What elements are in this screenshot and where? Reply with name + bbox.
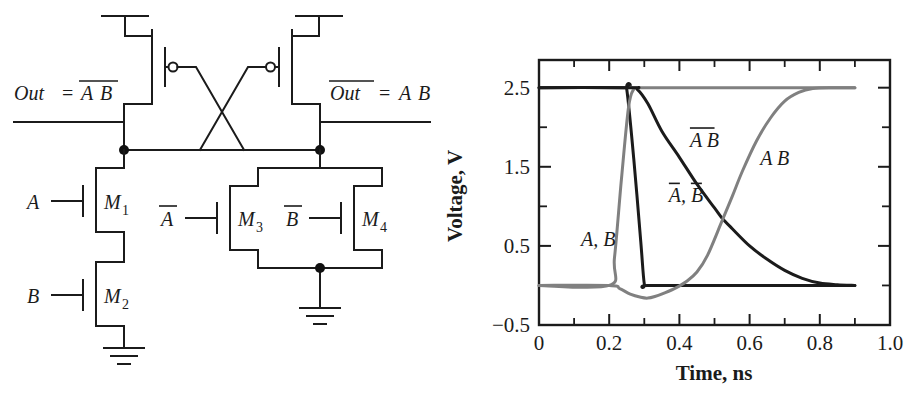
transistor-name-m1-sub: 1 (122, 203, 129, 218)
gate-label-a: A (25, 191, 40, 213)
y-axis-tick-labels: −0.50.51.52.5 (492, 76, 530, 337)
label-out-right: Out = A B (329, 81, 430, 104)
circuit-schematic-svg: Out = A B Out = A B A B A B (0, 0, 460, 395)
y-axis-title: Voltage, V (443, 150, 467, 242)
curve-annotation-text: A B (688, 129, 719, 151)
y-tick-label: −0.5 (492, 313, 530, 337)
transient-plot-svg: 00.20.40.60.81.0 −0.50.51.52.5 A, BA, BA… (440, 0, 916, 395)
label-out-right-b: B (418, 82, 430, 104)
pmos-right-gate-bubble-icon (266, 63, 275, 72)
x-tick-label: 0.8 (807, 331, 833, 355)
y-tick-label: 1.5 (504, 155, 530, 179)
pmos-right (275, 30, 320, 150)
transistor-name-m2: M 2 (103, 285, 129, 312)
x-axis-tick-labels: 00.20.40.60.81.0 (534, 331, 903, 355)
curve-annotation: A, B (579, 228, 615, 250)
label-out-left: Out = A B (14, 81, 118, 104)
gate-label-bbar-group: B (284, 206, 302, 230)
x-axis-title: Time, ns (676, 361, 753, 385)
figure-root: Out = A B Out = A B A B A B (0, 0, 916, 395)
pmos-left-gate-bubble-icon (169, 63, 178, 72)
transistor-name-m3-base: M (237, 208, 256, 230)
curve-annotation: A B (688, 128, 719, 151)
curve-annotation: A, B (667, 183, 703, 206)
ground-right-icon (300, 308, 340, 324)
transistor-name-m4-sub: 4 (380, 220, 387, 235)
transistor-name-m3-sub: 3 (256, 220, 263, 235)
cross-couple-wire-right (200, 67, 266, 150)
transistor-name-m3: M 3 (237, 208, 263, 235)
vdd-right-symbol (292, 16, 342, 36)
ground-left-icon (104, 348, 144, 364)
transistor-name-m1-base: M (103, 191, 122, 213)
label-out-right-a: A (397, 82, 412, 104)
plot-curve-annotations: A, BA, BA BA B (579, 128, 789, 250)
y-tick-label: 0.5 (504, 234, 530, 258)
transistor-m3 (186, 150, 382, 268)
curve-annotation-text: A B (758, 147, 789, 169)
cross-couple-wire-left (178, 67, 245, 150)
transistor-name-m2-sub: 2 (122, 297, 129, 312)
x-tick-label: 0.2 (596, 331, 622, 355)
curve-annotation-text: A, B (667, 184, 703, 206)
vdd-left-symbol (102, 16, 152, 36)
curve-annotation: A B (758, 147, 789, 169)
transistor-name-m2-base: M (103, 285, 122, 307)
label-out-left-eq: = (62, 82, 73, 104)
x-tick-label: 0.6 (736, 331, 762, 355)
label-out-left-a: A (79, 82, 94, 104)
x-tick-label: 0 (534, 331, 545, 355)
y-tick-label: 2.5 (504, 76, 530, 100)
gate-label-b: B (27, 285, 39, 307)
label-out-left-b: B (100, 82, 112, 104)
circuit-schematic-panel: Out = A B Out = A B A B A B (0, 0, 460, 395)
label-out-right-prefix: Out (330, 82, 360, 104)
transient-plot-panel: 00.20.40.60.81.0 −0.50.51.52.5 A, BA, BA… (440, 0, 916, 395)
gate-label-abar: A (159, 208, 174, 230)
x-tick-label: 1.0 (877, 331, 903, 355)
transistor-name-m1: M 1 (103, 191, 129, 218)
label-out-left-prefix: Out (14, 82, 44, 104)
transistor-name-m4-base: M (361, 208, 380, 230)
gate-label-abar-group: A (159, 206, 177, 230)
label-out-right-eq: = (379, 82, 390, 104)
curve-annotation-text: A, B (579, 228, 615, 250)
transistor-name-m4: M 4 (361, 208, 387, 235)
gate-label-bbar: B (286, 208, 298, 230)
pmos-left (124, 30, 169, 150)
x-tick-label: 0.4 (666, 331, 693, 355)
node-dot-gnd-right (315, 263, 325, 273)
